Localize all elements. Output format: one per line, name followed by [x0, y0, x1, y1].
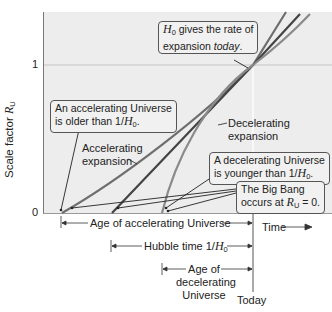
y-tick-1: 1 — [32, 58, 38, 70]
decelerating-expansion-label: Decelerating expansion — [228, 117, 290, 143]
today-label: Today — [237, 294, 266, 307]
big-bang-callout: The Big Bang occurs at RU = 0. — [236, 181, 325, 214]
hubble-time-label: Hubble time 1/H0 — [144, 240, 228, 256]
time-axis-label: Time — [262, 221, 286, 234]
h0-rate-callout: H0 gives the rate of expansion today. — [158, 21, 258, 54]
y-tick-0: 0 — [32, 206, 38, 218]
decelerating-age-label: Age of decelerating Universe — [176, 263, 232, 302]
older-than-callout: An accelerating Universe is older than 1… — [50, 100, 177, 133]
accelerating-expansion-label: Accelerating expansion — [82, 142, 143, 168]
y-axis-label: Scale factor RU — [2, 101, 17, 178]
accelerating-age-label: Age of accelerating Universe — [90, 217, 231, 230]
